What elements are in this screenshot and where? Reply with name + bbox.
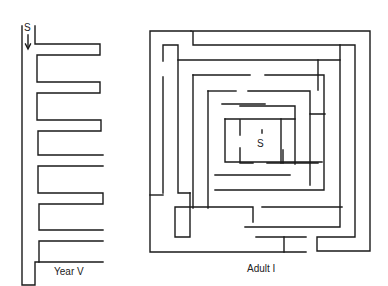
maze-label-year-v: Year V — [54, 266, 84, 277]
maze-diagram — [0, 0, 388, 286]
start-marker-adult-i: S — [257, 138, 264, 149]
maze-label-adult-i: Adult I — [247, 263, 275, 274]
start-marker-year-v: S — [24, 22, 31, 33]
maze-year-v — [22, 26, 103, 285]
